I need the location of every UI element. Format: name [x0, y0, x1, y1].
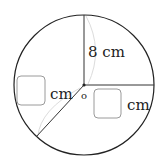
- left-answer-box[interactable]: [17, 76, 45, 105]
- top-radius-label: 8 cm: [88, 43, 125, 61]
- center-point: [82, 83, 85, 86]
- left-unit-label: cm: [50, 85, 73, 103]
- right-answer-box[interactable]: [94, 89, 121, 118]
- right-unit-label: cm: [127, 96, 150, 114]
- circle-diagram: 8 cm cm o cm: [0, 0, 166, 168]
- center-label: o: [81, 90, 87, 101]
